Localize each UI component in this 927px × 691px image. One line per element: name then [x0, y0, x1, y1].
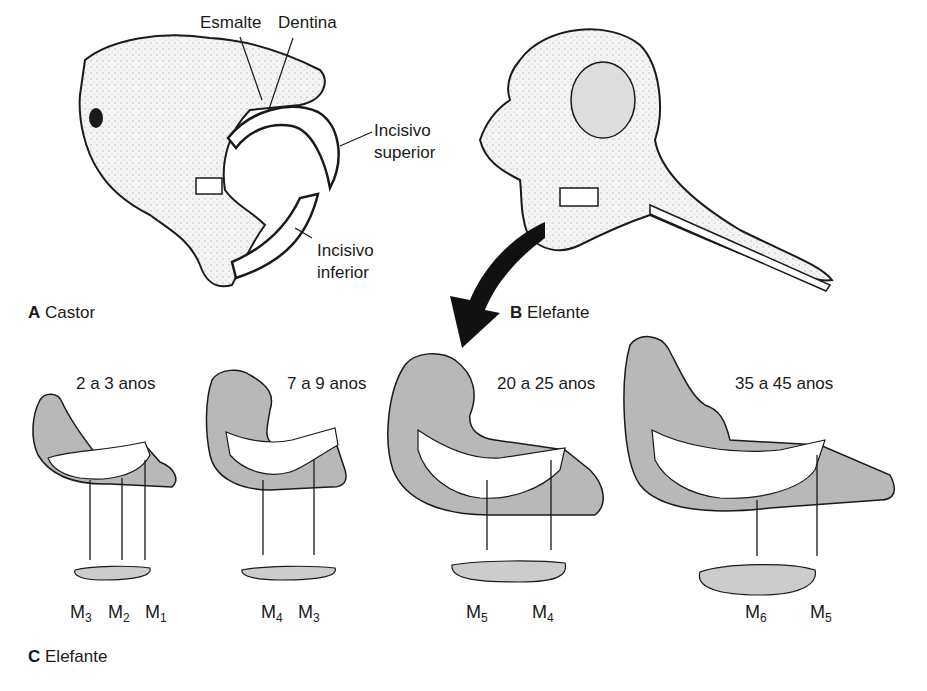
label-lower-incisor-line1: Incisivo: [317, 242, 374, 259]
molar-label: M6: [745, 603, 767, 624]
jaw-stage-1: [33, 394, 176, 580]
molar-label: M4: [532, 603, 554, 624]
label-enamel: Esmalte: [200, 14, 261, 31]
molar-label: M2: [108, 603, 130, 624]
arrow-icon: [450, 222, 545, 348]
panel-c-caption: C Elefante: [28, 648, 107, 665]
age-label-2: 7 a 9 anos: [287, 375, 366, 392]
label-upper-incisor-line2: superior: [374, 144, 435, 161]
panel-a-caption: A Castor: [28, 304, 95, 321]
illustration-canvas: [0, 0, 927, 691]
molar-label: M3: [298, 603, 320, 624]
panel-b-letter: B: [510, 303, 522, 322]
label-dentin: Dentina: [278, 14, 337, 31]
molar-label: M4: [261, 603, 283, 624]
panel-b-caption: B Elefante: [510, 304, 589, 321]
age-label-1: 2 a 3 anos: [76, 375, 155, 392]
age-label-3: 20 a 25 anos: [497, 375, 595, 392]
panel-a-title: Castor: [45, 303, 95, 322]
molar-label: M5: [466, 603, 488, 624]
molar-label: M3: [70, 603, 92, 624]
label-upper-incisor-line1: Incisivo: [374, 122, 431, 139]
age-label-4: 35 a 45 anos: [735, 375, 833, 392]
molar-label: M5: [810, 603, 832, 624]
jaw-stage-2: [206, 370, 346, 580]
panel-a-letter: A: [28, 303, 40, 322]
panel-b-title: Elefante: [527, 303, 589, 322]
label-lower-incisor-line2: inferior: [317, 264, 369, 281]
panel-c-title: Elefante: [45, 647, 107, 666]
panel-c-letter: C: [28, 647, 40, 666]
molar-label: M1: [145, 603, 167, 624]
elephant-skull-drawing: [480, 29, 832, 291]
